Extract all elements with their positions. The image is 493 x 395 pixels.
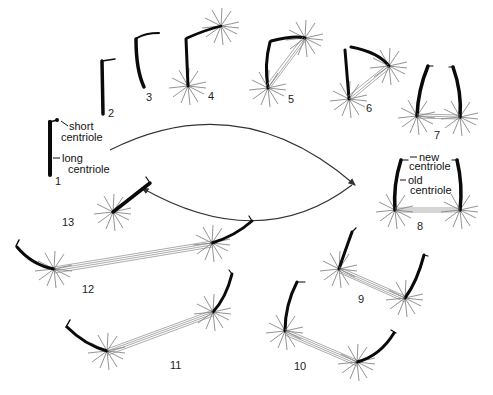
stage-9: 9 <box>320 228 428 317</box>
stage-12: 12 <box>16 216 252 295</box>
old-centriole-label-2: centriole <box>410 184 452 196</box>
stage-13: 13 <box>62 177 150 231</box>
long-centriole-label-2: centriole <box>68 163 110 175</box>
stage-label: 12 <box>82 283 94 295</box>
stage-label: 11 <box>170 359 181 371</box>
diagram-svg: 1 short centriole long centriole 2 3 4 5 <box>0 0 493 395</box>
centriole-cycle-diagram: 1 short centriole long centriole 2 3 4 5 <box>0 0 493 395</box>
cycle-arrow-return <box>142 185 352 221</box>
stage-label: 1 <box>55 175 61 187</box>
new-centriole-label-2: centriole <box>409 160 451 172</box>
stage-label: 2 <box>108 107 114 119</box>
stage-label: 9 <box>358 293 364 305</box>
stage-label: 13 <box>62 216 74 228</box>
stage-4: 4 <box>169 8 239 105</box>
stage-label: 10 <box>294 360 306 372</box>
stage-10: 10 <box>266 282 396 381</box>
short-centriole-label-2: centriole <box>61 131 103 143</box>
stage-label: 3 <box>146 91 152 103</box>
stage-label: 5 <box>288 93 294 105</box>
cycle-arrow-forward <box>110 124 355 185</box>
stage-label: 4 <box>208 90 214 102</box>
stage-1: 1 short centriole long centriole <box>48 118 110 187</box>
stage-3: 3 <box>136 33 159 103</box>
stage-2: 2 <box>102 59 115 119</box>
stage-7: 7 <box>398 66 478 141</box>
stage-5: 5 <box>249 20 323 107</box>
stage-label: 7 <box>434 129 440 141</box>
stage-label: 6 <box>366 102 372 114</box>
stage-8: 8 new centriole old centriole <box>376 151 478 232</box>
stage-6: 6 <box>330 47 407 118</box>
stage-label: 8 <box>417 220 423 232</box>
